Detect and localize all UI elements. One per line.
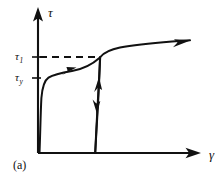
tau1-subscript: 1 [19, 56, 23, 65]
panel-label: (a) [13, 159, 26, 171]
tau1-tick-label: τ1 [15, 51, 23, 62]
figure-panel-a: τ γ τ1 τy (a) [0, 0, 223, 177]
y-axis-label: τ [48, 6, 53, 19]
unloading-direction-arrowhead-icon [93, 100, 101, 115]
x-axis [38, 148, 201, 158]
x-axis-label: γ [209, 148, 214, 161]
tauy-subscript: y [19, 77, 22, 86]
curve-continued-loading [100, 40, 190, 57]
curve-initial-loading [40, 57, 101, 153]
tauy-tick-label: τy [15, 72, 22, 83]
continued-loading-arrowhead-icon [173, 39, 191, 47]
stress-strain-diagram [0, 0, 223, 177]
y-axis [33, 7, 43, 153]
